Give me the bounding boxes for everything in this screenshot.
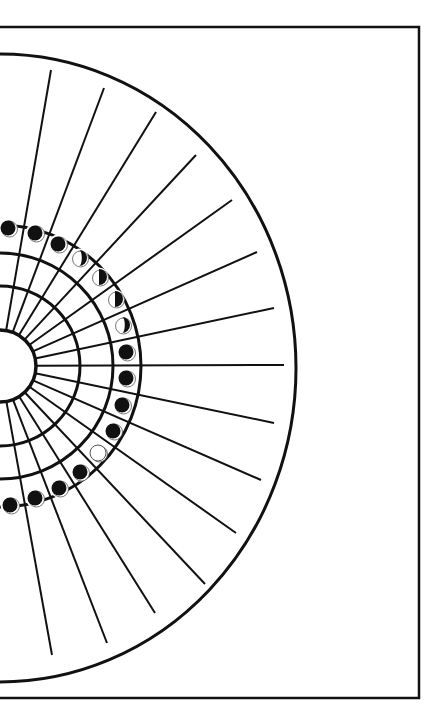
moon-phase-icon: [0, 219, 18, 238]
page-frame: [0, 27, 419, 698]
moon-dark: [73, 465, 88, 480]
moon-dark: [51, 237, 66, 252]
moon-phase-icon: [113, 396, 132, 415]
moon-phase-icon: [1, 496, 20, 515]
radial-rays: [6, 70, 284, 655]
moon-phase-icon: [106, 290, 125, 309]
moon-dark: [28, 491, 43, 506]
moon-phase-icon: [117, 343, 136, 362]
moon-phase-icon: [49, 235, 68, 254]
moon-phase-icon: [90, 268, 109, 287]
moon-dark: [28, 226, 43, 241]
ray-line: [36, 365, 284, 366]
moon-phase-icon: [117, 369, 136, 388]
outer-boundary: [0, 54, 296, 682]
moon-dark: [106, 424, 121, 439]
moon-dark: [52, 481, 67, 496]
frame-border: [0, 27, 419, 698]
moon-phase-icon: [26, 489, 45, 508]
moon-phase-icon: [104, 422, 123, 441]
moon-phase-icon: [113, 316, 132, 335]
moon-dark: [3, 498, 18, 513]
ray-line: [19, 112, 156, 335]
hub-circle: [0, 330, 36, 402]
center-hub: [0, 330, 36, 402]
moon-dark: [119, 345, 134, 360]
moon-phase-icon: [50, 479, 69, 498]
moon-dark: [119, 371, 134, 386]
moon-phase-icon: [26, 224, 45, 243]
moon-phase-icon: [70, 249, 89, 268]
moon-phase-icon: [89, 444, 108, 463]
ray-line: [33, 380, 261, 480]
outer-boundary-arc: [0, 54, 296, 682]
moon-dark: [115, 398, 130, 413]
ray-line: [33, 252, 257, 351]
moon-phase-icon: [71, 463, 90, 482]
moon-full: [90, 445, 106, 461]
moon-phase-diagram: [0, 0, 440, 717]
moon-dark: [1, 221, 16, 236]
